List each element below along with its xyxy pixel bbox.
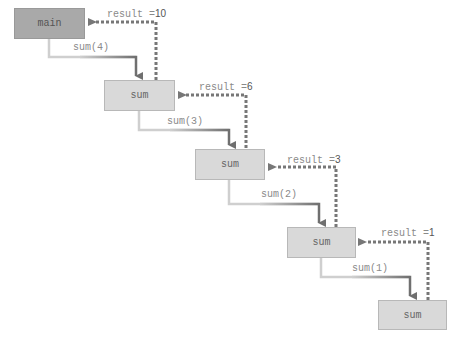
frame-sum-4: sum xyxy=(104,80,175,111)
call-label-3: sum(2) xyxy=(261,189,297,200)
call-arrow-3 xyxy=(229,180,319,223)
result-label-1: result =10 xyxy=(107,8,166,20)
frame-sum-3: sum xyxy=(195,149,265,180)
result-value: 6 xyxy=(247,81,253,92)
result-label-2: result =6 xyxy=(199,81,253,93)
frame-sum-1: sum xyxy=(378,300,447,330)
result-value: 1 xyxy=(429,227,435,238)
frame-label: sum xyxy=(130,90,148,101)
frame-label: main xyxy=(37,18,61,29)
result-value: 10 xyxy=(155,8,166,19)
result-prefix: result = xyxy=(381,228,429,239)
result-label-3: result =3 xyxy=(287,154,341,166)
frame-sum-2: sum xyxy=(287,227,356,258)
call-label-1: sum(4) xyxy=(73,42,109,53)
frame-label: sum xyxy=(221,159,239,170)
result-label-4: result =1 xyxy=(381,227,435,239)
frame-label: sum xyxy=(403,310,421,321)
result-value: 3 xyxy=(335,154,341,165)
result-prefix: result = xyxy=(287,155,335,166)
result-prefix: result = xyxy=(107,9,155,20)
call-label-4: sum(1) xyxy=(352,263,388,274)
call-stack-diagram: main sum sum sum sum sum(4) sum(3) sum(2… xyxy=(0,0,460,344)
result-prefix: result = xyxy=(199,82,247,93)
call-label-2: sum(3) xyxy=(167,116,203,127)
frame-label: sum xyxy=(312,237,330,248)
frame-main: main xyxy=(14,8,85,39)
